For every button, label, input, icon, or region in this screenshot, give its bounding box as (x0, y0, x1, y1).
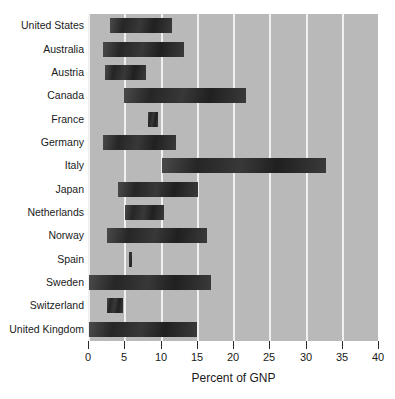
gridline-30 (306, 14, 308, 341)
y-axis-category-labels: United StatesAustraliaAustriaCanadaFranc… (0, 14, 84, 341)
chart-container: United StatesAustraliaAustriaCanadaFranc… (0, 0, 395, 399)
x-tick-25 (269, 341, 270, 349)
x-tick-label-10: 10 (155, 351, 167, 363)
x-tick-label-15: 15 (191, 351, 203, 363)
gridline-20 (233, 14, 235, 341)
gridline-10 (161, 14, 163, 341)
y-axis-label-australia: Australia (0, 44, 84, 55)
y-axis-label-germany: Germany (0, 137, 84, 148)
bar (89, 322, 197, 337)
bar (103, 42, 184, 57)
y-axis-label-norway: Norway (0, 230, 84, 241)
y-axis-label-united-kingdom: United Kingdom (0, 324, 84, 335)
y-axis-label-austria: Austria (0, 67, 84, 78)
x-tick-5 (124, 341, 125, 349)
x-tick-label-30: 30 (300, 351, 312, 363)
x-tick-20 (233, 341, 234, 349)
x-tick-label-5: 5 (121, 351, 127, 363)
y-axis-label-switzerland: Switzerland (0, 300, 84, 311)
bar (105, 65, 146, 80)
x-tick-label-25: 25 (263, 351, 275, 363)
gridline-0 (88, 14, 90, 341)
bar (107, 298, 123, 313)
bar (129, 252, 132, 267)
y-axis-label-canada: Canada (0, 90, 84, 101)
bar (124, 88, 246, 103)
bar (148, 112, 158, 127)
x-tick-label-20: 20 (227, 351, 239, 363)
x-tick-0 (88, 341, 89, 349)
x-tick-40 (378, 341, 379, 349)
x-tick-label-0: 0 (85, 351, 91, 363)
gridline-15 (197, 14, 199, 341)
x-axis-title: Percent of GNP (88, 371, 379, 385)
bar (118, 182, 198, 197)
y-axis-label-italy: Italy (0, 160, 84, 171)
gridline-5 (124, 14, 126, 341)
x-axis-ticks (0, 341, 395, 351)
x-tick-15 (197, 341, 198, 349)
bar (103, 135, 177, 150)
y-axis-label-spain: Spain (0, 254, 84, 265)
bar (89, 275, 211, 290)
plot-area (88, 14, 378, 341)
y-axis-label-united-states: United States (0, 20, 84, 31)
x-tick-35 (342, 341, 343, 349)
x-axis-tick-labels: 0510152025303540 (0, 351, 395, 367)
x-tick-label-40: 40 (372, 351, 384, 363)
x-tick-10 (161, 341, 162, 349)
bar (107, 228, 207, 243)
bar (125, 205, 164, 220)
x-tick-30 (306, 341, 307, 349)
y-axis-label-japan: Japan (0, 184, 84, 195)
gridline-35 (342, 14, 344, 341)
bar (110, 18, 172, 33)
bar (162, 158, 326, 173)
y-axis-label-france: France (0, 114, 84, 125)
y-axis-label-netherlands: Netherlands (0, 207, 84, 218)
y-axis-label-sweden: Sweden (0, 277, 84, 288)
x-tick-label-35: 35 (336, 351, 348, 363)
gridline-25 (269, 14, 271, 341)
